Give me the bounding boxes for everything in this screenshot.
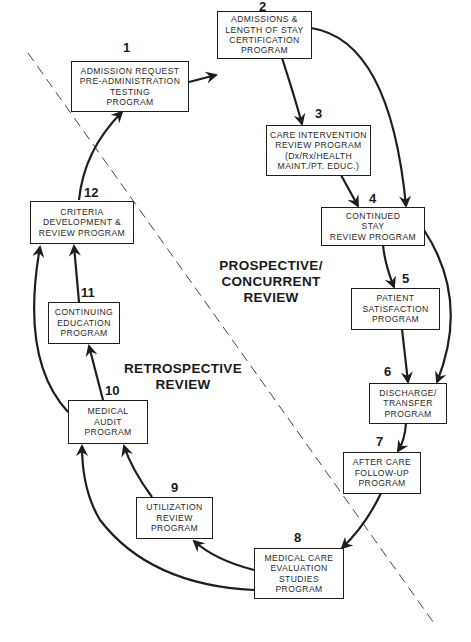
zone-line: CONCURRENT (208, 274, 334, 290)
step-box-2: ADMISSIONS & LENGTH OF STAY CERTIFICATIO… (217, 11, 312, 59)
arrow-9-to-10 (124, 446, 152, 497)
step-line: CONTINUING (55, 307, 113, 317)
arrow-3-to-4 (341, 175, 358, 206)
step-box-11: CONTINUING EDUCATION PROGRAM (48, 302, 120, 344)
step-line: EVALUATION (270, 563, 327, 573)
step-line: PROGRAM (384, 409, 431, 419)
arrow-8-to-9 (194, 541, 254, 570)
step-line: ADMISSIONS & (231, 14, 298, 24)
step-line: PROGRAM (372, 314, 419, 324)
step-line: MEDICAL (87, 406, 128, 416)
step-box-6: DISCHARGE/ TRANSFER PROGRAM (369, 383, 447, 424)
step-line: TRANSFER (383, 398, 433, 408)
step-box-7: AFTER CARE FOLLOW-UP PROGRAM (343, 452, 421, 494)
step-number-7: 7 (376, 434, 383, 449)
step-line: PROGRAM (60, 328, 107, 338)
step-line: PROGRAM (241, 45, 288, 55)
step-line: PROGRAM (358, 478, 405, 488)
step-line: DISCHARGE/ (379, 388, 436, 398)
arrow-2-to-4 (311, 28, 406, 206)
step-line: REVIEW (156, 513, 192, 523)
step-line: SATISFACTION (362, 304, 428, 314)
step-number-10: 10 (105, 383, 119, 398)
step-line: PRE-ADMINISTRATION (80, 76, 181, 86)
zone-line: PROSPECTIVE/ (208, 258, 334, 274)
arrow-10-to-11 (89, 346, 103, 400)
step-line: ADMISSION REQUEST (81, 66, 180, 76)
step-number-12: 12 (84, 185, 98, 200)
step-line: STAY (362, 221, 385, 231)
step-line: PROGRAM (84, 427, 131, 437)
step-line: AUDIT (94, 417, 122, 427)
step-line: CERTIFICATION (229, 35, 299, 45)
zone-line: REVIEW (208, 290, 334, 306)
step-box-3: CARE INTERVENTION REVIEW PROGRAM (Dx/Rx/… (266, 125, 371, 176)
step-line: MEDICAL CARE (265, 553, 334, 563)
step-line: DEVELOPMENT & (43, 217, 121, 227)
step-line: MAINT./PT. EDUC.) (278, 161, 360, 171)
step-line: PROGRAM (106, 97, 153, 107)
step-box-5: PATIENT SATISFACTION PROGRAM (351, 288, 440, 330)
zone-line: RETROSPECTIVE (118, 361, 248, 377)
arrow-5-to-6 (402, 329, 408, 382)
step-line: CRITERIA (60, 207, 103, 217)
step-line: CARE INTERVENTION (270, 130, 367, 140)
step-number-5: 5 (402, 271, 409, 286)
step-box-8: MEDICAL CARE EVALUATION STUDIES PROGRAM (254, 548, 344, 599)
step-line: STUDIES (279, 574, 319, 584)
step-number-8: 8 (294, 530, 301, 545)
step-line: REVIEW PROGRAM (39, 228, 125, 238)
step-box-10: MEDICAL AUDIT PROGRAM (68, 400, 148, 444)
arrow-11-to-12 (74, 246, 79, 302)
step-line: LENGTH OF STAY (225, 25, 303, 35)
step-number-6: 6 (384, 364, 391, 379)
step-line: EDUCATION (57, 318, 111, 328)
zone-label-prospective: PROSPECTIVE/ CONCURRENT REVIEW (208, 258, 334, 306)
zone-line: REVIEW (118, 377, 248, 393)
arrow-4-to-5 (383, 245, 394, 287)
step-line: PROGRAM (151, 523, 198, 533)
arrow-2-to-3 (282, 58, 302, 124)
step-line: UTILIZATION (146, 502, 202, 512)
step-box-4: CONTINUED STAY REVIEW PROGRAM (321, 207, 425, 246)
step-number-3: 3 (315, 106, 322, 121)
arrow-6-to-7 (398, 423, 406, 451)
step-line: TESTING (110, 87, 150, 97)
step-line: PATIENT (377, 293, 415, 303)
step-number-9: 9 (171, 480, 178, 495)
step-number-4: 4 (369, 191, 376, 206)
step-box-12: CRITERIA DEVELOPMENT & REVIEW PROGRAM (30, 201, 134, 244)
step-box-9: UTILIZATION REVIEW PROGRAM (136, 497, 213, 539)
step-line: AFTER CARE (353, 457, 411, 467)
zone-label-retrospective: RETROSPECTIVE REVIEW (118, 361, 248, 393)
step-line: FOLLOW-UP (355, 468, 410, 478)
step-line: PROGRAM (275, 584, 322, 594)
step-line: REVIEW PROGRAM (275, 140, 361, 150)
step-line: (Dx/Rx/HEALTH (285, 151, 352, 161)
step-number-11: 11 (81, 285, 95, 300)
step-number-1: 1 (123, 40, 130, 55)
step-box-1: ADMISSION REQUEST PRE-ADMINISTRATION TES… (71, 61, 189, 112)
step-line: CONTINUED (346, 211, 401, 221)
arrow-1-to-2 (189, 75, 216, 82)
step-line: REVIEW PROGRAM (330, 232, 416, 242)
